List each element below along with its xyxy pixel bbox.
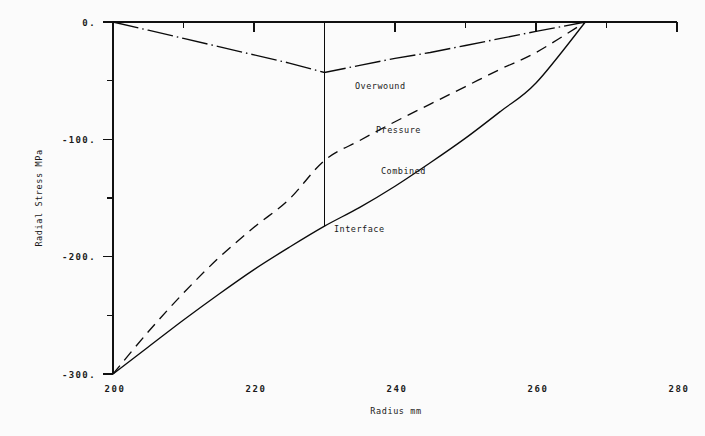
xtick-label-260: 260 — [527, 384, 548, 394]
annotation-interface: Interface — [334, 224, 385, 234]
xtick-label-220: 220 — [245, 384, 266, 394]
annotation-overwound: Overwound — [355, 81, 406, 91]
x-major-ticks — [113, 22, 677, 32]
ytick-label-minus200: -200. — [62, 252, 96, 262]
xtick-label-240: 240 — [386, 384, 407, 394]
y-minor-ticks — [107, 81, 113, 316]
series-pressure-curve — [113, 22, 585, 374]
ytick-label-minus100: -100. — [62, 135, 96, 145]
x-axis-title: Radius mm — [370, 406, 421, 416]
y-axis-title: Radial Stress MPa — [34, 149, 44, 246]
series-overwound-curve — [113, 22, 585, 72]
chart-figure: 0. -100. -200. -300. 200 220 240 260 280… — [0, 0, 705, 436]
annotation-pressure: Pressure — [376, 125, 421, 135]
ytick-label-0: 0. — [82, 18, 96, 28]
ytick-label-minus300: -300. — [62, 370, 96, 380]
series-combined-curve — [113, 22, 585, 374]
radial-stress-plot: 0. -100. -200. -300. 200 220 240 260 280… — [0, 0, 705, 436]
xtick-label-280: 280 — [668, 384, 689, 394]
annotation-combined: Combined — [381, 166, 426, 176]
xtick-label-200: 200 — [104, 384, 125, 394]
